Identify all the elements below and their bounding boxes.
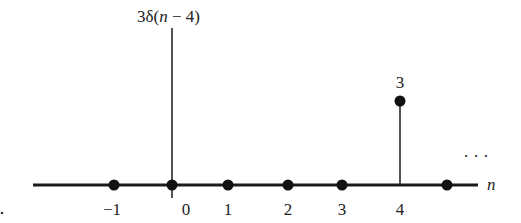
tick-label: 1 — [224, 200, 233, 219]
sample-dot-n-1 — [109, 180, 120, 191]
chart-title: 3δ(n − 4) — [137, 7, 200, 26]
stray-dot — [1, 212, 4, 215]
tick-label: 2 — [284, 200, 293, 219]
sample-dot-n1 — [223, 180, 234, 191]
value-label: 3 — [396, 73, 405, 92]
tick-label: −1 — [103, 200, 121, 219]
tick-label: 3 — [338, 200, 347, 219]
tick-label: 4 — [396, 200, 405, 219]
axis-variable-label: n — [487, 175, 496, 194]
continuation-ellipsis: · · · — [463, 147, 488, 166]
tick-label: 0 — [182, 200, 191, 219]
sample-dot-n2 — [283, 180, 294, 191]
sample-dot-n0 — [167, 180, 178, 191]
stem-plot: 3δ(n − 4) 3 −1 0 1 2 3 4 · · · n — [0, 0, 521, 223]
sample-dot-n5 — [442, 180, 453, 191]
sample-dot-n4 — [395, 96, 406, 107]
sample-dot-n3 — [337, 180, 348, 191]
